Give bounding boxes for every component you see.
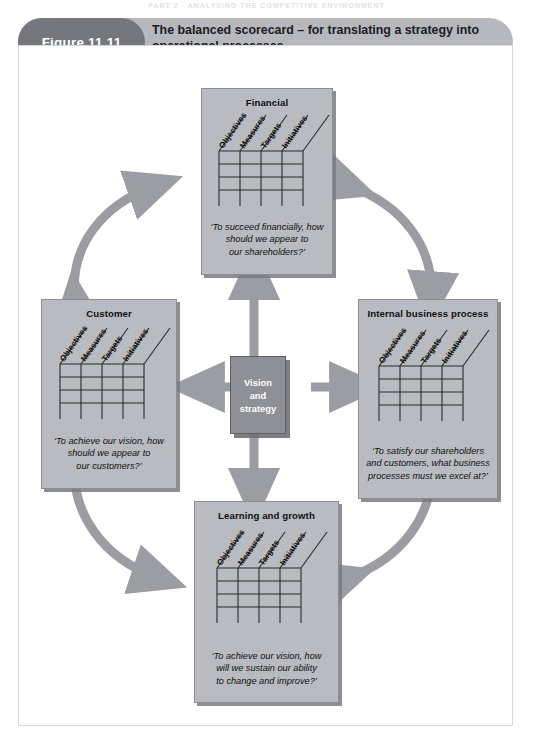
perspective-box-internal-business-process[interactable]: Internal business process	[358, 299, 498, 499]
perspective-box-learning-and-growth[interactable]: Learning and growth	[194, 501, 339, 703]
arc-financial-internal	[349, 186, 431, 299]
perspective-title-customer: Customer	[42, 308, 176, 319]
caption-line: ‘To achieve our vision, how	[199, 650, 334, 662]
scorecard-matrix-internal: Objectives Measures Targets Initiatives	[379, 326, 479, 426]
perspective-title-learning-and-growth: Learning and growth	[195, 510, 338, 521]
scorecard-matrix-learning: Objectives Measures Targets Initiatives	[217, 528, 317, 628]
perspective-box-customer[interactable]: Customer	[41, 299, 177, 489]
running-head: PART 2 · ANALYSING THE COMPETITIVE ENVIR…	[0, 1, 533, 10]
perspective-title-internal-business-process: Internal business process	[359, 308, 497, 319]
caption-line: will we sustain our ability	[199, 662, 334, 674]
figure-frame: Financial	[18, 45, 513, 726]
vision-line-3: strategy	[240, 402, 276, 415]
caption-line: and customers, what business	[363, 457, 493, 469]
caption-line: our customers?’	[46, 460, 172, 472]
scorecard-matrix-customer: Objectives Measures Targets Initiatives	[60, 324, 160, 424]
caption-line: ‘To achieve our vision, how	[46, 435, 172, 447]
scorecard-matrix-financial: Objectives Measures Targets Initiatives	[219, 111, 319, 211]
perspective-box-financial[interactable]: Financial	[201, 88, 333, 275]
perspective-caption-customer: ‘To achieve our vision, how should we ap…	[46, 435, 172, 472]
perspective-caption-financial: ‘To succeed financially, how should we a…	[206, 221, 328, 258]
perspective-caption-internal-business-process: ‘To satisfy our shareholders and custome…	[363, 445, 493, 482]
arc-customer-financial	[74, 186, 155, 299]
caption-line: processes must we excel at?’	[363, 470, 493, 482]
caption-line: should we appear to	[206, 233, 328, 245]
vision-line-2: and	[250, 389, 267, 402]
vision-line-1: Vision	[244, 376, 272, 389]
caption-line: our shareholders?’	[206, 246, 328, 258]
perspective-caption-learning-and-growth: ‘To achieve our vision, how will we sust…	[199, 650, 334, 687]
caption-line: ‘To satisfy our shareholders	[363, 445, 493, 457]
caption-line: to change and improve?’	[199, 675, 334, 687]
figure-page: PART 2 · ANALYSING THE COMPETITIVE ENVIR…	[0, 0, 533, 738]
caption-line: should we appear to	[46, 447, 172, 459]
caption-line: ‘To succeed financially, how	[206, 221, 328, 233]
vision-and-strategy-box[interactable]: Vision and strategy	[230, 356, 286, 434]
perspective-title-financial: Financial	[202, 97, 332, 108]
